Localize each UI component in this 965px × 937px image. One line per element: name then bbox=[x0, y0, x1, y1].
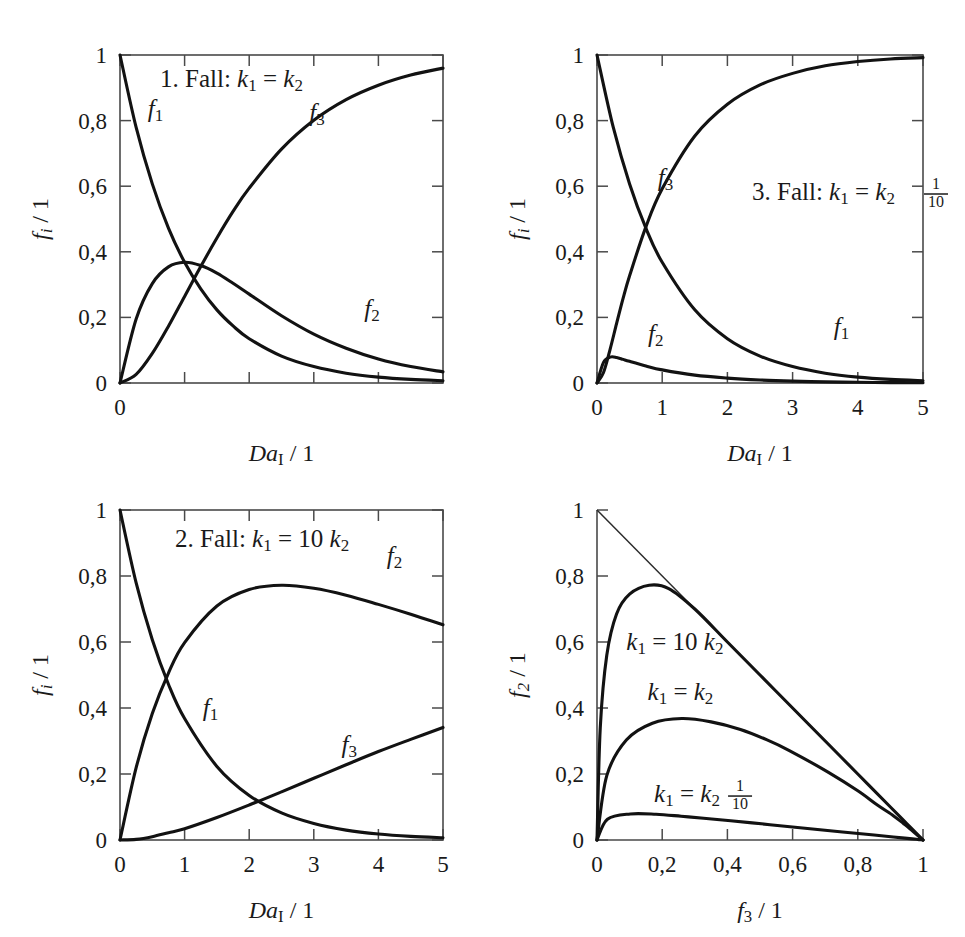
y-tick-label: 0 bbox=[573, 371, 585, 396]
y-axis-title: f2 / 1 bbox=[504, 652, 533, 698]
x-axis-title: DaI / 1 bbox=[248, 897, 315, 926]
curve-label: f2 bbox=[387, 542, 402, 572]
y-axis-title: fi / 1 bbox=[27, 198, 56, 240]
y-tick-label: 0,4 bbox=[78, 696, 107, 721]
series-f2 bbox=[120, 262, 443, 383]
panel-title: 1. Fall: k1 = k2 bbox=[160, 65, 303, 95]
series-f3 bbox=[597, 58, 923, 383]
x-tick-label: 0,2 bbox=[648, 852, 677, 877]
panel-2-fall-2: 00,20,40,60,81012345DaI / 1fi / 12. Fall… bbox=[0, 460, 485, 920]
panel-4-selectivity: 00,20,40,60,8100,20,40,60,81f3 / 1f2 / 1… bbox=[480, 460, 965, 920]
y-tick-label: 1 bbox=[573, 43, 585, 68]
y-tick-label: 0,6 bbox=[78, 630, 107, 655]
x-tick-label: 1 bbox=[656, 395, 668, 420]
fraction-one-tenth: 110 bbox=[728, 777, 752, 812]
y-tick-label: 0 bbox=[96, 828, 108, 853]
y-tick-label: 0,2 bbox=[555, 762, 584, 787]
panel-3-fall-3: 00,20,40,60,81012345DaI / 1fi / 13. Fall… bbox=[480, 0, 965, 460]
y-tick-label: 0,8 bbox=[555, 109, 584, 134]
y-tick-label: 0,6 bbox=[555, 174, 584, 199]
x-tick-label: 3 bbox=[787, 395, 799, 420]
y-tick-label: 0,6 bbox=[78, 174, 107, 199]
x-tick-label: 5 bbox=[437, 852, 449, 877]
y-tick-label: 0 bbox=[573, 828, 585, 853]
y-tick-label: 1 bbox=[573, 498, 585, 523]
series-f1 bbox=[120, 55, 443, 381]
panel-title: 2. Fall: k1 = 10 k2 bbox=[175, 525, 349, 555]
y-axis-title: fi / 1 bbox=[504, 198, 533, 240]
curve-label: k1 = k2 bbox=[654, 780, 720, 810]
x-tick-label: 1 bbox=[179, 852, 191, 877]
y-tick-label: 0,8 bbox=[78, 109, 107, 134]
y-tick-label: 1 bbox=[96, 498, 108, 523]
series-k1-k2 bbox=[597, 719, 923, 840]
x-tick-label: 0,8 bbox=[843, 852, 872, 877]
curve-label: f1 bbox=[834, 313, 849, 343]
series-f3 bbox=[120, 727, 443, 840]
x-tick-label: 0,6 bbox=[778, 852, 807, 877]
x-tick-label: 0 bbox=[591, 395, 603, 420]
x-tick-label: 0,4 bbox=[713, 852, 742, 877]
panel-title: 3. Fall: k1 = k2 bbox=[752, 178, 895, 208]
x-axis-title: f3 / 1 bbox=[737, 897, 783, 926]
x-tick-label: 2 bbox=[243, 852, 255, 877]
curve-label: f3 bbox=[342, 731, 357, 761]
y-tick-label: 0,4 bbox=[78, 240, 107, 265]
y-tick-label: 0 bbox=[96, 371, 108, 396]
y-tick-label: 0,6 bbox=[555, 630, 584, 655]
svg-text:10: 10 bbox=[732, 795, 748, 812]
y-tick-label: 1 bbox=[96, 43, 108, 68]
x-tick-label: 0 bbox=[591, 852, 603, 877]
series-k1-1-10-k2 bbox=[597, 814, 923, 840]
x-tick-label: 2 bbox=[722, 395, 734, 420]
curve-label: k1 = k2 bbox=[648, 678, 714, 708]
plot-frame bbox=[597, 55, 923, 383]
curve-label: f1 bbox=[148, 95, 163, 125]
y-tick-label: 0,4 bbox=[555, 240, 584, 265]
curve-label: f3 bbox=[658, 164, 673, 194]
x-tick-label: 5 bbox=[917, 395, 929, 420]
curve-label: f3 bbox=[309, 99, 324, 129]
series-f1 bbox=[597, 55, 923, 381]
y-tick-label: 0,2 bbox=[78, 305, 107, 330]
x-tick-label: 0 bbox=[114, 395, 126, 420]
y-tick-label: 0,8 bbox=[555, 564, 584, 589]
y-tick-label: 0,8 bbox=[78, 564, 107, 589]
four-panel-figure: 00,20,40,60,810DaI / 1fi / 11. Fall: k1 … bbox=[0, 0, 965, 937]
y-tick-label: 0,2 bbox=[555, 305, 584, 330]
y-tick-label: 0,4 bbox=[555, 696, 584, 721]
x-tick-label: 0 bbox=[114, 852, 126, 877]
curve-label: k1 = 10 k2 bbox=[626, 628, 723, 658]
curve-label: f2 bbox=[648, 320, 663, 350]
svg-text:10: 10 bbox=[928, 193, 944, 210]
y-axis-title: fi / 1 bbox=[27, 654, 56, 696]
x-tick-label: 1 bbox=[917, 852, 929, 877]
y-tick-label: 0,2 bbox=[78, 762, 107, 787]
series-f2 bbox=[120, 585, 443, 840]
x-tick-label: 4 bbox=[852, 395, 864, 420]
fraction-one-tenth: 110 bbox=[924, 175, 948, 210]
x-tick-label: 4 bbox=[373, 852, 385, 877]
panel-1-fall-1: 00,20,40,60,810DaI / 1fi / 11. Fall: k1 … bbox=[0, 0, 485, 460]
svg-text:1: 1 bbox=[932, 175, 940, 192]
x-tick-label: 3 bbox=[308, 852, 320, 877]
plot-frame bbox=[120, 55, 443, 383]
svg-text:1: 1 bbox=[736, 777, 744, 794]
curve-label: f2 bbox=[364, 295, 379, 325]
curve-label: f1 bbox=[203, 694, 218, 724]
